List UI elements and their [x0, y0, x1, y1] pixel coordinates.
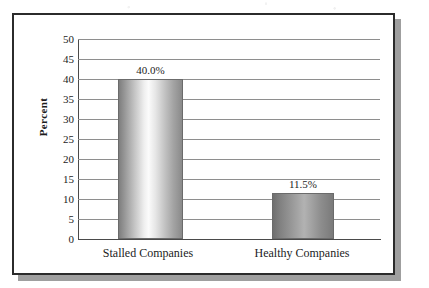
gridline — [78, 39, 380, 40]
bar-healthy-companies[interactable] — [272, 193, 334, 239]
y-tick-label: 10 — [34, 194, 74, 205]
y-tick-label: 25 — [34, 134, 74, 145]
y-tick-label: 0 — [34, 234, 74, 245]
bar-stalled-companies[interactable] — [118, 79, 183, 239]
x-axis-line — [78, 239, 381, 240]
scan-artifact — [0, 0, 429, 12]
bar-value-label-stalled-companies: 40.0% — [118, 65, 183, 76]
y-axis-tick-labels: 50 45 40 35 30 25 20 15 10 5 0 — [30, 39, 74, 240]
x-axis-category-label-stalled-companies: Stalled Companies — [68, 247, 228, 259]
y-tick-label: 30 — [34, 114, 74, 125]
y-tick-label: 15 — [34, 174, 74, 185]
gridline — [78, 59, 380, 60]
y-tick-label: 20 — [34, 154, 74, 165]
x-axis-category-label-healthy-companies: Healthy Companies — [222, 247, 382, 259]
y-tick-label: 40 — [34, 74, 74, 85]
y-tick-label: 35 — [34, 94, 74, 105]
bar-value-label-healthy-companies: 11.5% — [267, 179, 339, 190]
y-tick-label: 5 — [34, 214, 74, 225]
plot-area: 40.0% 11.5% — [78, 39, 380, 239]
y-tick-label: 45 — [34, 54, 74, 65]
figure-frame: Percent 50 45 40 35 30 25 20 15 10 5 0 — [12, 13, 395, 275]
bar-chart: Percent 50 45 40 35 30 25 20 15 10 5 0 — [14, 15, 393, 273]
y-tick-label: 50 — [34, 34, 74, 45]
